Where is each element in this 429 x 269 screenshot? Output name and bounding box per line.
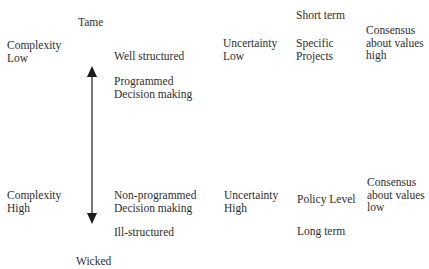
complexity-low-line2: Low bbox=[7, 52, 61, 65]
double-headed-arrow-icon bbox=[85, 66, 99, 224]
consensus-low-label: Consensus about values low bbox=[367, 176, 425, 214]
non-programmed-line1: Non-programmed bbox=[114, 189, 196, 202]
specific-projects-line2: Projects bbox=[296, 50, 334, 63]
non-programmed-decision-label: Non-programmed Decision making bbox=[114, 189, 196, 214]
ill-structured-label: Ill-structured bbox=[114, 226, 174, 239]
consensus-high-line2: about values bbox=[366, 37, 424, 50]
well-structured-text: Well structured bbox=[114, 50, 184, 63]
non-programmed-line2: Decision making bbox=[114, 202, 196, 215]
programmed-line1: Programmed bbox=[114, 75, 192, 88]
short-term-label: Short term bbox=[296, 9, 345, 22]
specific-projects-label: Specific Projects bbox=[296, 37, 334, 62]
long-term-label: Long term bbox=[297, 225, 345, 238]
short-term-text: Short term bbox=[296, 9, 345, 22]
consensus-high-label: Consensus about values high bbox=[366, 24, 424, 62]
uncertainty-high-label: Uncertainty High bbox=[224, 189, 278, 214]
policy-level-label: Policy Level bbox=[297, 193, 355, 206]
consensus-high-line1: Consensus bbox=[366, 24, 424, 37]
consensus-low-line3: low bbox=[367, 201, 425, 214]
complexity-high-label: Complexity High bbox=[7, 189, 61, 214]
tame-text: Tame bbox=[78, 16, 103, 29]
wicked-label: Wicked bbox=[76, 255, 111, 268]
uncertainty-low-label: Uncertainty Low bbox=[223, 37, 277, 62]
ill-structured-text: Ill-structured bbox=[114, 226, 174, 239]
consensus-low-line1: Consensus bbox=[367, 176, 425, 189]
wicked-text: Wicked bbox=[76, 255, 111, 268]
complexity-high-line2: High bbox=[7, 202, 61, 215]
long-term-text: Long term bbox=[297, 225, 345, 238]
complexity-high-line1: Complexity bbox=[7, 189, 61, 202]
consensus-low-line2: about values bbox=[367, 189, 425, 202]
consensus-high-line3: high bbox=[366, 49, 424, 62]
programmed-line2: Decision making bbox=[114, 88, 192, 101]
complexity-low-line1: Complexity bbox=[7, 39, 61, 52]
policy-level-text: Policy Level bbox=[297, 193, 355, 206]
tame-label: Tame bbox=[78, 16, 103, 29]
uncertainty-high-line1: Uncertainty bbox=[224, 189, 278, 202]
programmed-decision-label: Programmed Decision making bbox=[114, 75, 192, 100]
complexity-low-label: Complexity Low bbox=[7, 39, 61, 64]
uncertainty-low-line2: Low bbox=[223, 50, 277, 63]
uncertainty-low-line1: Uncertainty bbox=[223, 37, 277, 50]
specific-projects-line1: Specific bbox=[296, 37, 334, 50]
uncertainty-high-line2: High bbox=[224, 202, 278, 215]
well-structured-label: Well structured bbox=[114, 50, 184, 63]
